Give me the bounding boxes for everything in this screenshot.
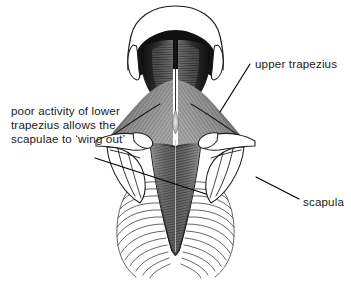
rib-cage-right-lateral-border [215, 192, 234, 277]
anatomy-illustration: upper trapezius poor activity of lower t… [0, 0, 351, 287]
label-lower-trapezius-note: poor activity of lower trapezius allows … [11, 104, 125, 145]
anatomical-figure: upper trapezius poor activity of lower t… [0, 0, 351, 287]
label-scapula: scapula [303, 195, 344, 208]
note-line-3: scapulae to ‘wing out’ [11, 132, 125, 145]
rib [150, 264, 170, 278]
aponeurosis-diamond [172, 110, 178, 134]
rib [125, 238, 166, 260]
note-line-1: poor activity of lower [11, 104, 120, 117]
rib-cage-left-lateral-border [117, 192, 136, 277]
leader-scapula [256, 177, 299, 199]
note-line-2: trapezius allows the [11, 118, 116, 131]
leader-upper-trapezius [220, 64, 250, 112]
scapula-right [198, 133, 255, 203]
lower-trapezius-group [150, 140, 201, 256]
rib [181, 264, 201, 278]
label-upper-trapezius: upper trapezius [255, 57, 337, 70]
rib [185, 238, 226, 260]
